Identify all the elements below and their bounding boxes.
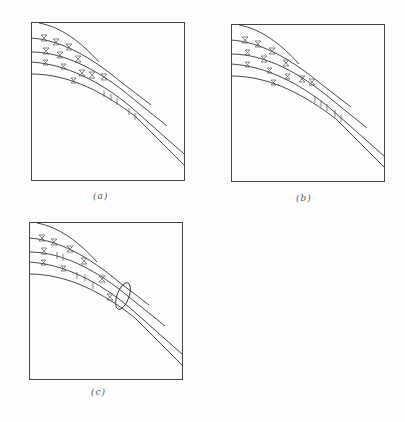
panel-b-caption: (b) — [296, 193, 312, 203]
panel-frame — [32, 23, 185, 181]
curve-3 — [31, 52, 167, 126]
panel-a-caption: (a) — [93, 191, 108, 201]
curve-5 — [31, 74, 184, 165]
panel-c-caption: (c) — [91, 387, 106, 397]
curve-1 — [39, 23, 99, 62]
curve-1 — [37, 223, 97, 262]
panel-b-diagram — [231, 24, 385, 182]
panel-c-diagram — [29, 222, 183, 380]
panel-c — [29, 222, 183, 380]
crystal-marks — [41, 35, 135, 120]
panel-frame — [30, 223, 183, 380]
crystal-marks — [39, 235, 113, 300]
curve-1 — [239, 25, 299, 64]
panel-frame — [232, 25, 385, 182]
panel-b — [231, 24, 385, 182]
curve-3 — [29, 252, 165, 326]
curve-5 — [231, 76, 384, 167]
panel-a-diagram — [31, 22, 185, 181]
curve-3 — [231, 54, 367, 128]
curve-5 — [29, 274, 182, 365]
panel-a — [31, 22, 185, 181]
crystal-marks — [242, 37, 341, 122]
